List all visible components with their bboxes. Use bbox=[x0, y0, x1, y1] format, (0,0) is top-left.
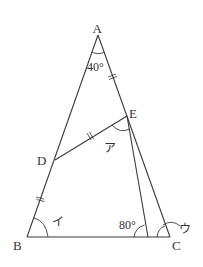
angle-label-a: 40° bbox=[87, 60, 104, 74]
label-e: E bbox=[129, 106, 137, 121]
segment-ac bbox=[98, 35, 170, 237]
label-b: B bbox=[13, 238, 22, 253]
segment-de bbox=[55, 116, 127, 160]
angle-label-i-kana: イ bbox=[52, 215, 64, 229]
geometry-diagram: A E D B C 40° 80° ア イ ウ bbox=[0, 0, 203, 267]
label-c: C bbox=[172, 238, 181, 253]
label-d: D bbox=[37, 153, 46, 168]
angle-arc-e bbox=[112, 125, 130, 131]
label-a: A bbox=[93, 21, 103, 36]
angle-arc-b bbox=[34, 218, 48, 237]
equal-mark-de bbox=[87, 132, 94, 140]
angle-label-80: 80° bbox=[119, 218, 136, 232]
angle-arc-c-inner bbox=[157, 226, 165, 237]
angle-label-a-kana: ア bbox=[104, 141, 116, 155]
angle-arc-a bbox=[93, 53, 105, 54]
angle-label-u-kana: ウ bbox=[179, 222, 191, 236]
